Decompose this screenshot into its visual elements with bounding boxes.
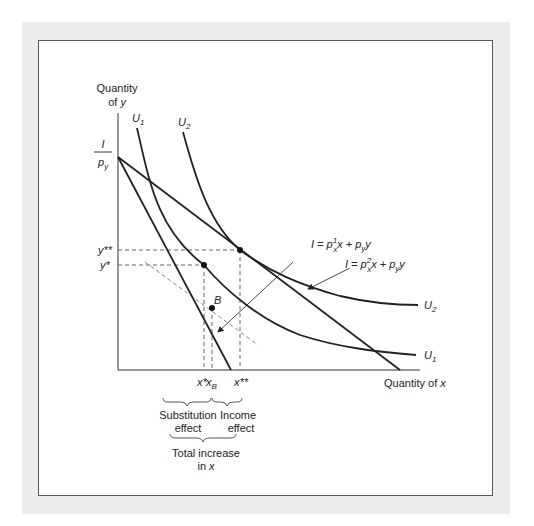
point-b-label: B — [214, 294, 221, 306]
brace-total — [170, 434, 236, 442]
budget-line-1 — [118, 157, 231, 370]
u2-label-top: U2 — [178, 116, 191, 131]
y-star-label: y* — [99, 259, 111, 271]
x-b-label: xB — [205, 376, 218, 391]
u2-label-right: U2 — [424, 299, 437, 314]
x-double-star-label: x** — [233, 376, 249, 388]
brace-substitution — [163, 398, 211, 406]
intercept-numerator: I — [101, 138, 104, 150]
indifference-curve-u2 — [183, 132, 418, 305]
u1-label-top: U1 — [132, 112, 144, 127]
u1-label-right: U1 — [424, 349, 436, 364]
y-axis-label: Quantity — [97, 82, 138, 94]
substitution-label-1: Substitution — [159, 409, 216, 421]
income-label-2: effect — [228, 422, 255, 434]
income-label-1: Income — [220, 409, 256, 421]
compensated-budget-line — [145, 262, 258, 345]
y-axis-label-2: of y — [108, 96, 127, 108]
point-initial — [201, 262, 207, 268]
arrow-budget-1 — [218, 262, 293, 332]
intercept-denominator: py — [97, 156, 109, 171]
point-final — [237, 247, 243, 253]
substitution-label-2: effect — [175, 422, 202, 434]
budget-line-2-label: I = p2xx + pyy — [345, 256, 406, 274]
brace-income — [212, 398, 242, 406]
y-double-star-label: y** — [97, 244, 113, 256]
indifference-curve-u1 — [137, 128, 416, 355]
total-label-1: Total increase — [172, 447, 240, 459]
arrow-budget-2 — [308, 268, 350, 289]
budget-line-1-label: I = p1xx + pyy — [311, 236, 372, 254]
total-label-2: in x — [197, 460, 215, 472]
x-axis-label: Quantity of x — [384, 377, 446, 389]
indifference-diagram: Quantity of y I py U1 U2 U2 U1 I = p1xx … — [0, 0, 534, 526]
